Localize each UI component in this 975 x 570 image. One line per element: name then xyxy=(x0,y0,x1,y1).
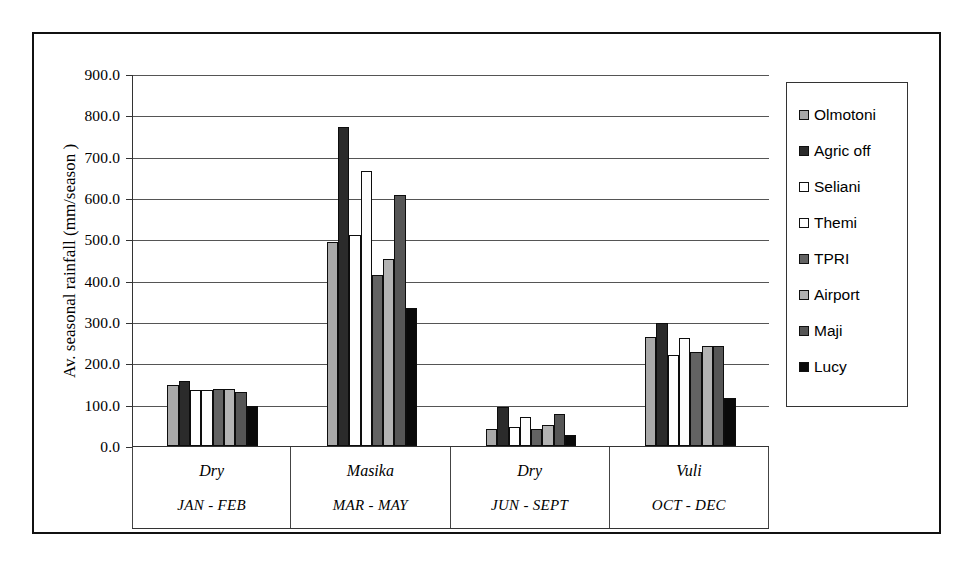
legend-label: Maji xyxy=(814,322,842,340)
category-season-label: Masika xyxy=(347,462,394,480)
legend-label: Agric off xyxy=(814,142,871,160)
bar-group-bars xyxy=(452,75,611,446)
legend-label: Airport xyxy=(814,286,860,304)
bar-seliani[interactable] xyxy=(668,355,679,446)
bar-agric-off[interactable] xyxy=(338,127,349,446)
legend-swatch-icon xyxy=(799,326,809,336)
bar-olmotoni[interactable] xyxy=(327,242,338,446)
bar-lucy[interactable] xyxy=(247,406,258,446)
bar-lucy[interactable] xyxy=(724,398,735,446)
y-axis-tick-label: 0.0 xyxy=(100,438,120,456)
bar-maji[interactable] xyxy=(554,414,565,446)
bar-seliani[interactable] xyxy=(509,427,520,446)
y-axis-tick xyxy=(126,75,133,76)
bar-tpri[interactable] xyxy=(372,275,383,446)
bar-tpri[interactable] xyxy=(531,429,542,446)
legend-item-maji[interactable]: Maji xyxy=(799,313,907,349)
y-axis-tick-label: 700.0 xyxy=(84,148,120,166)
bar-olmotoni[interactable] xyxy=(167,385,178,446)
category-months-label: OCT - DEC xyxy=(652,497,726,514)
bar-seliani[interactable] xyxy=(349,235,360,446)
legend-item-seliani[interactable]: Seliani xyxy=(799,169,907,205)
legend-swatch-icon xyxy=(799,182,809,192)
y-axis-tick-label: 500.0 xyxy=(84,231,120,249)
bar-themi[interactable] xyxy=(679,338,690,446)
category-months-label: JUN - SEPT xyxy=(491,497,568,514)
chart-figure: Av. seasonal rainfall (mm/season ) 900.0… xyxy=(32,32,941,534)
bar-themi[interactable] xyxy=(520,417,531,446)
legend-label: Lucy xyxy=(814,358,847,376)
y-axis-title: Av. seasonal rainfall (mm/season ) xyxy=(56,80,84,442)
bar-seliani[interactable] xyxy=(190,390,201,446)
bar-themi[interactable] xyxy=(201,390,212,446)
category-season-label: Dry xyxy=(199,462,224,480)
bar-group-bars xyxy=(611,75,770,446)
legend-swatch-icon xyxy=(799,290,809,300)
bar-group xyxy=(452,75,611,446)
plot-area: 900.0800.0700.0600.0500.0400.0300.0200.0… xyxy=(132,75,769,447)
bar-group-bars xyxy=(133,75,292,446)
y-axis-tick-label: 900.0 xyxy=(84,66,120,84)
legend-label: TPRI xyxy=(814,250,849,268)
legend-swatch-icon xyxy=(799,146,809,156)
legend-swatch-icon xyxy=(799,362,809,372)
legend-item-airport[interactable]: Airport xyxy=(799,277,907,313)
legend-item-olmotoni[interactable]: Olmotoni xyxy=(799,97,907,133)
bar-group xyxy=(611,75,770,446)
bar-lucy[interactable] xyxy=(565,435,576,446)
y-axis-tick xyxy=(126,323,133,324)
bar-maji[interactable] xyxy=(394,195,405,446)
y-axis-tick-label: 300.0 xyxy=(84,314,120,332)
y-axis-tick xyxy=(126,158,133,159)
legend-item-themi[interactable]: Themi xyxy=(799,205,907,241)
y-axis-tick xyxy=(126,364,133,365)
y-axis-title-text: Av. seasonal rainfall (mm/season ) xyxy=(60,144,80,378)
bar-tpri[interactable] xyxy=(213,389,224,446)
y-axis-tick xyxy=(126,240,133,241)
category-season-label: Vuli xyxy=(676,462,701,480)
y-axis-tick-label: 200.0 xyxy=(84,355,120,373)
bar-agric-off[interactable] xyxy=(656,323,667,446)
bar-group xyxy=(292,75,451,446)
bar-agric-off[interactable] xyxy=(179,381,190,446)
y-axis-tick xyxy=(126,199,133,200)
legend-item-lucy[interactable]: Lucy xyxy=(799,349,907,385)
bar-olmotoni[interactable] xyxy=(645,337,656,446)
bar-airport[interactable] xyxy=(702,346,713,446)
bar-themi[interactable] xyxy=(361,171,372,446)
y-axis-tick-label: 100.0 xyxy=(84,396,120,414)
y-axis-tick xyxy=(126,116,133,117)
chart-legend: OlmotoniAgric offSelianiThemiTPRIAirport… xyxy=(786,82,908,407)
legend-item-agric-off[interactable]: Agric off xyxy=(799,133,907,169)
legend-label: Themi xyxy=(814,214,857,232)
y-axis-tick-label: 600.0 xyxy=(84,190,120,208)
bar-maji[interactable] xyxy=(235,392,246,446)
legend-item-tpri[interactable]: TPRI xyxy=(799,241,907,277)
legend-swatch-icon xyxy=(799,254,809,264)
bar-olmotoni[interactable] xyxy=(486,429,497,446)
bar-tpri[interactable] xyxy=(690,352,701,446)
category-months-label: JAN - FEB xyxy=(177,497,246,514)
bar-group-bars xyxy=(292,75,451,446)
legend-label: Olmotoni xyxy=(814,106,876,124)
legend-swatch-icon xyxy=(799,218,809,228)
bar-airport[interactable] xyxy=(542,425,553,446)
legend-label: Seliani xyxy=(814,178,861,196)
category-axis-table: DryJAN - FEBMasikaMAR - MAYDryJUN - SEPT… xyxy=(132,447,769,529)
category-cell: DryJAN - FEB xyxy=(132,447,291,528)
bar-agric-off[interactable] xyxy=(497,407,508,446)
y-axis-tick-label: 800.0 xyxy=(84,107,120,125)
y-axis-tick xyxy=(126,406,133,407)
bar-airport[interactable] xyxy=(383,259,394,446)
bar-group xyxy=(133,75,292,446)
category-months-label: MAR - MAY xyxy=(333,497,408,514)
category-cell: DryJUN - SEPT xyxy=(451,447,610,528)
category-cell: VuliOCT - DEC xyxy=(610,447,769,528)
category-season-label: Dry xyxy=(517,462,542,480)
y-axis-tick xyxy=(126,282,133,283)
category-cell: MasikaMAR - MAY xyxy=(291,447,450,528)
bar-airport[interactable] xyxy=(224,389,235,446)
bar-maji[interactable] xyxy=(713,346,724,446)
y-axis-tick-label: 400.0 xyxy=(84,272,120,290)
bar-lucy[interactable] xyxy=(406,308,417,446)
